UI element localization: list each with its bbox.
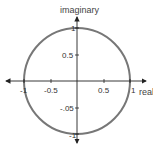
x-tick-label: -1 [20, 86, 28, 95]
x-tick-label: 1 [131, 86, 136, 95]
x-tick-label: 0.5 [98, 86, 110, 95]
y-tick-label: -.05 [60, 104, 74, 113]
y-tick-label: 1 [71, 24, 76, 33]
y-tick-label: -1 [69, 131, 77, 140]
y-tick-label: 0.5 [62, 51, 74, 60]
x-tick-label: -0.5 [44, 86, 58, 95]
unit-circle-diagram: imaginary real -1 -0.5 0.5 1 1 0.5 -.05 … [0, 0, 153, 145]
y-axis-label: imaginary [60, 5, 100, 15]
x-axis-label: real [139, 87, 153, 97]
